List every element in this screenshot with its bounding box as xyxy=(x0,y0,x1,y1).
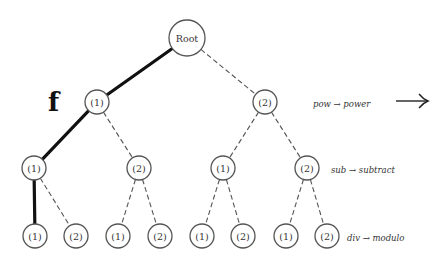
level-annotations: pow → powersub → subtractdiv → modulo xyxy=(313,99,404,243)
tree-node: (2) xyxy=(148,224,172,248)
node-label: (1) xyxy=(195,231,208,242)
tree-node: (1) xyxy=(211,156,235,180)
node-label: (1) xyxy=(111,231,124,242)
node-label: (2) xyxy=(300,163,313,174)
tree-edge-dashed xyxy=(290,179,304,224)
node-label: (2) xyxy=(69,231,82,242)
right-arrow-icon xyxy=(396,94,428,108)
tree-edge-dashed xyxy=(310,180,323,225)
tree-node: (2) xyxy=(231,224,255,248)
root-node: Root xyxy=(169,20,205,56)
tree-node: (1) xyxy=(106,224,130,248)
tree-edge-dashed xyxy=(201,49,256,94)
level-annotation: div → modulo xyxy=(347,233,404,243)
tree-edges xyxy=(34,48,323,225)
tree-node: (1) xyxy=(23,224,47,248)
tree-edge-dashed xyxy=(271,112,300,158)
tree-edge-solid xyxy=(34,180,35,224)
tree-nodes: Root(1)(2)(1)(2)(1)(2)(1)(2)(1)(2)(1)(2)… xyxy=(22,20,339,248)
tree-node: (1) xyxy=(274,224,298,248)
tree-edge-dashed xyxy=(226,180,239,225)
function-f-label: f xyxy=(48,87,61,117)
tree-edge-solid xyxy=(107,48,173,95)
node-label: (2) xyxy=(236,231,249,242)
tree-node: (1) xyxy=(190,224,214,248)
tree-edge-dashed xyxy=(206,179,220,224)
tree-node: (1) xyxy=(85,90,109,114)
tree-node: (2) xyxy=(64,224,88,248)
tree-edge-dashed xyxy=(103,112,132,158)
tree-edge-solid xyxy=(42,111,88,160)
tree-node: (2) xyxy=(315,224,339,248)
decision-tree-diagram: Root(1)(2)(1)(2)(1)(2)(1)(2)(1)(2)(1)(2)… xyxy=(0,0,440,264)
node-label: (2) xyxy=(320,231,333,242)
tree-edge-dashed xyxy=(122,179,136,224)
node-label: (1) xyxy=(90,97,103,108)
node-label: (1) xyxy=(216,163,229,174)
tree-node: (1) xyxy=(22,156,46,180)
tree-edge-dashed xyxy=(40,178,69,226)
node-label: (2) xyxy=(132,163,145,174)
node-label: (2) xyxy=(153,231,166,242)
level-annotation: sub → subtract xyxy=(331,165,395,175)
tree-node: (2) xyxy=(253,90,277,114)
node-label: (1) xyxy=(279,231,292,242)
tree-edge-dashed xyxy=(229,112,258,158)
tree-edge-dashed xyxy=(143,179,157,224)
level-annotation: pow → power xyxy=(313,99,371,109)
node-label: (1) xyxy=(27,163,40,174)
node-label: Root xyxy=(176,33,199,44)
node-label: (1) xyxy=(28,231,41,242)
tree-node: (2) xyxy=(127,156,151,180)
node-label: (2) xyxy=(258,97,271,108)
tree-node: (2) xyxy=(295,156,319,180)
